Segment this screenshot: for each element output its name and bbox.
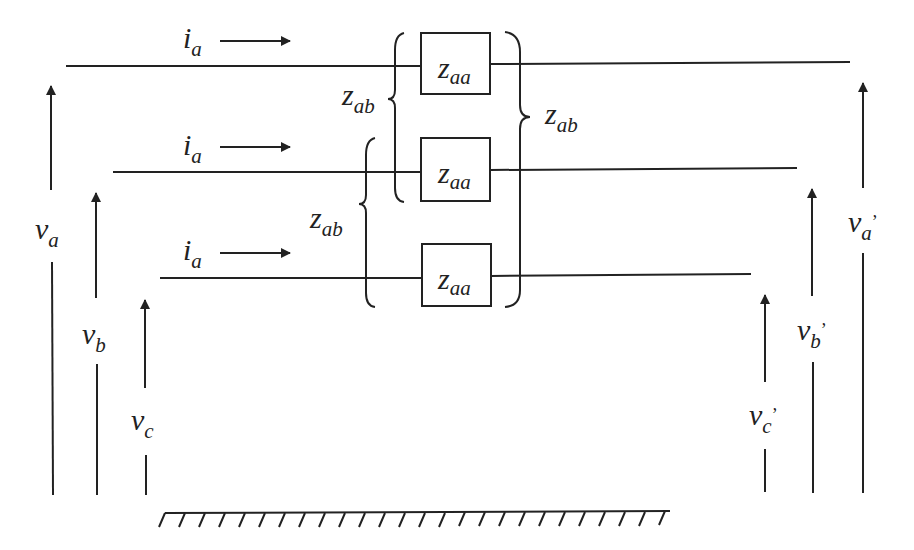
svg-text:vb: vb — [82, 317, 106, 357]
ground-icon — [159, 511, 670, 527]
svg-text:va’: va’ — [848, 205, 878, 245]
voltage-vb-prime: vb’ — [797, 189, 827, 493]
svg-text:ia: ia — [183, 21, 202, 61]
svg-text:ia: ia — [183, 233, 202, 273]
circuit-diagram: zaa zaa zaa ia ia ia zab zab zab va — [0, 0, 914, 550]
voltage-va: va — [35, 86, 59, 495]
svg-text:vb’: vb’ — [797, 313, 827, 353]
voltage-vc-prime: vc’ — [749, 295, 778, 492]
mutual-brace-ab: zab — [341, 33, 404, 202]
svg-text:zaa: zaa — [437, 156, 471, 194]
svg-text:vc’: vc’ — [749, 398, 778, 438]
current-c: ia — [183, 233, 290, 273]
voltage-vc: vc — [131, 300, 154, 495]
svg-text:zab: zab — [341, 78, 375, 118]
impedance-box-a: zaa — [421, 33, 490, 94]
mutual-brace-bc: zab — [309, 138, 375, 307]
voltage-vb: vb — [82, 193, 106, 495]
svg-text:zaa: zaa — [437, 51, 471, 89]
current-a: ia — [183, 21, 290, 61]
svg-text:zab: zab — [544, 97, 578, 137]
current-b: ia — [183, 128, 290, 168]
svg-text:vc: vc — [131, 403, 154, 443]
svg-text:ia: ia — [183, 128, 202, 168]
svg-text:va: va — [35, 212, 59, 252]
impedance-box-c: zaa — [422, 244, 491, 306]
svg-text:zab: zab — [309, 201, 343, 241]
svg-text:zaa: zaa — [437, 262, 471, 300]
impedance-box-b: zaa — [421, 138, 490, 201]
voltage-va-prime: va’ — [848, 83, 878, 493]
